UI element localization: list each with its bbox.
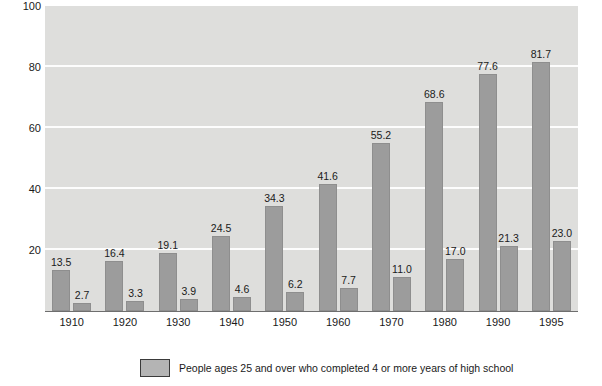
bar-1990-series-2 xyxy=(500,246,518,311)
bar-group-1940: 24.54.6 xyxy=(212,6,251,311)
bar-1980-series-2 xyxy=(446,259,464,311)
x-axis-tick-labels: 1910192019301940195019601970198019901995 xyxy=(45,315,578,331)
x-tick-label-1930: 1930 xyxy=(148,315,208,329)
y-tick-label-100: 100 xyxy=(1,1,41,12)
bar-group-1950: 34.36.2 xyxy=(265,6,304,311)
x-tick-label-1990: 1990 xyxy=(468,315,528,329)
legend: People ages 25 and over who completed 4 … xyxy=(140,359,513,377)
bar-1950-series-2 xyxy=(286,292,304,311)
bar-value-1970-series-1: 55.2 xyxy=(361,130,401,141)
bar-group-1990: 77.621.3 xyxy=(479,6,518,311)
bar-1920-series-1 xyxy=(105,261,123,311)
bar-group-1910: 13.52.7 xyxy=(52,6,91,311)
bar-group-1970: 55.211.0 xyxy=(372,6,411,311)
bar-1920-series-2 xyxy=(126,301,144,311)
x-tick-label-1995: 1995 xyxy=(521,315,581,329)
bar-value-1930-series-1: 19.1 xyxy=(148,240,188,251)
bar-1940-series-1 xyxy=(212,236,230,311)
bar-1950-series-1 xyxy=(265,206,283,311)
bar-value-1950-series-1: 34.3 xyxy=(254,193,294,204)
bar-value-1995-series-2: 23.0 xyxy=(542,228,582,239)
bar-1970-series-2 xyxy=(393,277,411,311)
x-tick-label-1910: 1910 xyxy=(42,315,102,329)
x-tick-label-1980: 1980 xyxy=(415,315,475,329)
bar-value-1960-series-1: 41.6 xyxy=(308,171,348,182)
bar-value-1930-series-2: 3.9 xyxy=(169,286,209,297)
bar-value-1940-series-1: 24.5 xyxy=(201,223,241,234)
bar-1970-series-1 xyxy=(372,143,390,311)
bar-value-1980-series-1: 68.6 xyxy=(414,89,454,100)
bar-value-1970-series-2: 11.0 xyxy=(382,264,422,275)
bar-1930-series-1 xyxy=(159,253,177,311)
bar-group-1930: 19.13.9 xyxy=(159,6,198,311)
x-axis-line xyxy=(45,311,578,312)
bar-value-1910-series-2: 2.7 xyxy=(62,290,102,301)
x-tick-label-1920: 1920 xyxy=(95,315,155,329)
bar-1960-series-1 xyxy=(319,184,337,311)
bar-1980-series-1 xyxy=(425,102,443,311)
x-tick-label-1960: 1960 xyxy=(308,315,368,329)
bar-1995-series-1 xyxy=(532,62,550,311)
y-tick-label-60: 60 xyxy=(1,123,41,134)
bar-1940-series-2 xyxy=(233,297,251,311)
legend-label-series-1: People ages 25 and over who completed 4 … xyxy=(179,362,513,374)
y-tick-label-80: 80 xyxy=(1,62,41,73)
y-axis-tick-labels: 20406080100 xyxy=(0,0,41,320)
x-tick-label-1940: 1940 xyxy=(202,315,262,329)
bar-value-1960-series-2: 7.7 xyxy=(329,275,369,286)
bar-1930-series-2 xyxy=(180,299,198,311)
x-tick-label-1970: 1970 xyxy=(361,315,421,329)
legend-swatch-series-1 xyxy=(140,359,170,377)
x-tick-label-1950: 1950 xyxy=(255,315,315,329)
bar-value-1950-series-2: 6.2 xyxy=(275,279,315,290)
bar-group-1920: 16.43.3 xyxy=(105,6,144,311)
bar-group-1960: 41.67.7 xyxy=(319,6,358,311)
bar-group-1995: 81.723.0 xyxy=(532,6,571,311)
plot-area: 13.52.716.43.319.13.924.54.634.36.241.67… xyxy=(45,6,578,311)
bar-1960-series-2 xyxy=(340,288,358,311)
bar-group-1980: 68.617.0 xyxy=(425,6,464,311)
bar-value-1980-series-2: 17.0 xyxy=(435,246,475,257)
y-tick-label-40: 40 xyxy=(1,184,41,195)
bar-value-1990-series-2: 21.3 xyxy=(489,233,529,244)
bar-value-1910-series-1: 13.5 xyxy=(41,257,81,268)
y-tick-label-20: 20 xyxy=(1,245,41,256)
bar-value-1995-series-1: 81.7 xyxy=(521,49,561,60)
bar-1910-series-2 xyxy=(73,303,91,311)
bar-value-1920-series-1: 16.4 xyxy=(94,248,134,259)
bar-value-1920-series-2: 3.3 xyxy=(115,288,155,299)
bar-value-1940-series-2: 4.6 xyxy=(222,284,262,295)
bar-value-1990-series-1: 77.6 xyxy=(468,61,508,72)
bar-1990-series-1 xyxy=(479,74,497,311)
bar-1995-series-2 xyxy=(553,241,571,311)
